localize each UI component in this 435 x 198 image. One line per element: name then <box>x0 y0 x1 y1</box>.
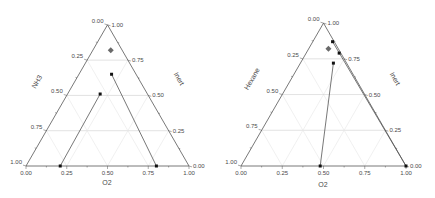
left-tick-label: 0.50 <box>267 88 279 94</box>
gridline-diagonal <box>46 131 66 166</box>
square-marker <box>110 73 113 76</box>
right-axis-title: Inert <box>389 71 402 87</box>
left-axis-tick <box>23 165 26 166</box>
diamond-marker <box>325 46 331 52</box>
bottom-tick-label: 1.00 <box>400 170 412 176</box>
bottom-axis-title: O2 <box>102 179 111 186</box>
left-tick-label: 0.75 <box>246 123 258 129</box>
right-tick-label: 0.25 <box>389 127 401 133</box>
left-axis-tick <box>84 59 87 60</box>
right-axis-tick <box>189 166 192 167</box>
ternary-chart-2: 0.000.250.500.751.000.000.250.500.751.00… <box>225 16 422 188</box>
right-tick-label: 0.00 <box>410 163 422 169</box>
gridline-diagonal <box>303 59 365 166</box>
bottom-tick-label: 0.25 <box>61 170 73 176</box>
left-tick-label: 1.00 <box>10 159 22 165</box>
bottom-tick-label: 0.00 <box>235 170 247 176</box>
bottom-tick-label: 0.25 <box>276 170 288 176</box>
left-axis-tick <box>105 24 108 25</box>
bottom-axis-title: O2 <box>318 181 327 188</box>
gridline-diagonal <box>87 60 148 166</box>
bottom-tick-label: 0.50 <box>102 170 114 176</box>
left-axis-tick <box>238 165 241 166</box>
right-tick-label: 0.75 <box>348 56 360 62</box>
bottom-tick-label: 0.00 <box>20 170 32 176</box>
square-marker <box>59 165 62 168</box>
left-tick-label: 0.25 <box>287 52 299 58</box>
left-axis-tick <box>300 58 303 59</box>
left-axis-tick <box>279 94 282 95</box>
gridline-diagonal <box>365 130 386 166</box>
square-marker <box>331 40 334 43</box>
data-line <box>60 94 100 166</box>
ternary-figure: 0.000.250.500.751.000.000.250.500.751.00… <box>0 0 435 198</box>
left-axis-tick <box>259 129 262 130</box>
left-tick-label: 0.00 <box>92 18 104 24</box>
gridline-diagonal <box>148 131 168 166</box>
left-tick-label: 0.25 <box>71 53 83 59</box>
left-axis-tick <box>321 22 324 23</box>
square-marker <box>405 165 408 168</box>
left-tick-label: 1.00 <box>225 159 237 165</box>
right-tick-label: 1.00 <box>328 20 340 26</box>
right-tick-label: 0.50 <box>152 92 164 98</box>
gridline-diagonal <box>262 130 283 166</box>
bottom-tick-label: 0.75 <box>359 170 371 176</box>
gridline-diagonal <box>67 60 128 166</box>
left-axis-tick <box>43 130 46 131</box>
left-tick-label: 0.00 <box>308 16 320 22</box>
square-marker <box>332 62 335 65</box>
left-axis-tick <box>64 95 67 96</box>
ternary-plots-canvas: 0.000.250.500.751.000.000.250.500.751.00… <box>0 0 435 198</box>
diamond-marker <box>108 47 114 53</box>
right-tick-label: 1.00 <box>112 22 124 28</box>
left-axis-title: Hexane <box>243 66 261 90</box>
right-tick-label: 0.75 <box>132 57 144 63</box>
left-tick-label: 0.50 <box>51 88 63 94</box>
data-line <box>320 63 333 166</box>
bottom-tick-label: 0.50 <box>318 170 330 176</box>
left-axis-title: NH3 <box>30 74 43 90</box>
right-tick-label: 0.25 <box>173 128 185 134</box>
right-tick-label: 0.50 <box>369 92 381 98</box>
square-marker <box>99 93 102 96</box>
data-line <box>333 42 406 166</box>
gridline-diagonal <box>282 59 344 166</box>
ternary-chart-1: 0.000.250.500.751.000.000.250.500.751.00… <box>10 18 205 186</box>
right-tick-label: 0.00 <box>193 163 205 169</box>
square-marker <box>155 165 158 168</box>
bottom-tick-label: 1.00 <box>183 170 195 176</box>
left-tick-label: 0.75 <box>31 124 43 130</box>
square-marker <box>319 165 322 168</box>
right-axis-title: Inert <box>173 71 186 87</box>
square-marker <box>338 52 341 55</box>
data-line <box>112 74 157 166</box>
bottom-tick-label: 0.75 <box>142 170 154 176</box>
